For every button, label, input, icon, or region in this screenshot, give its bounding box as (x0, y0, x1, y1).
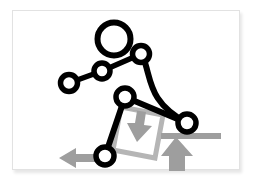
joint-head (98, 23, 131, 56)
joint-knee (178, 114, 196, 132)
left-arrow-icon (59, 148, 95, 168)
joint-hip (116, 88, 134, 106)
joint-foot (96, 147, 114, 165)
kinematic-figure-diagram (13, 11, 241, 171)
joint-hand (61, 75, 78, 92)
screenshot-root (0, 0, 258, 187)
up-arrow-icon (161, 137, 193, 171)
kinematic-figure-card (12, 10, 240, 170)
joint-shoulder (133, 46, 150, 63)
joint-elbow (94, 63, 110, 79)
